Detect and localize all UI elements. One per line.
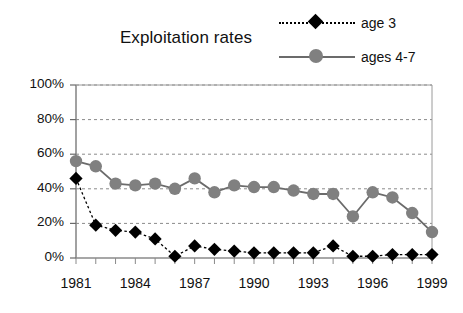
data-point-age-3-1984	[129, 225, 142, 238]
x-tick-label: 1987	[169, 275, 221, 291]
x-tick-label: 1999	[406, 275, 458, 291]
y-tick-label: 0%	[14, 249, 64, 264]
y-tick-label: 20%	[14, 214, 64, 229]
chart-container: Exploitation rates age 3 ages 4-7 0%20%4…	[0, 0, 463, 313]
data-point-ages-4-7-1984	[129, 179, 141, 191]
data-point-age-3-1995	[346, 250, 359, 263]
data-point-age-3-1999	[425, 248, 438, 261]
data-point-age-3-1997	[386, 248, 399, 261]
gridlines	[76, 85, 432, 223]
data-point-ages-4-7-1998	[406, 207, 418, 219]
data-point-ages-4-7-1988	[208, 186, 220, 198]
data-point-age-3-1989	[228, 244, 241, 257]
data-point-age-3-1988	[208, 243, 221, 256]
data-series-layer	[69, 155, 438, 263]
data-point-ages-4-7-1987	[188, 172, 200, 184]
data-point-ages-4-7-1983	[109, 177, 121, 189]
y-tick-marks	[70, 85, 76, 258]
data-point-ages-4-7-1996	[366, 186, 378, 198]
data-point-age-3-1983	[109, 224, 122, 237]
data-point-age-3-1994	[327, 239, 340, 252]
y-tick-label: 80%	[14, 111, 64, 126]
series-line-2	[76, 161, 432, 232]
data-point-ages-4-7-1992	[287, 184, 299, 196]
x-tick-label: 1984	[109, 275, 161, 291]
data-point-age-3-1996	[366, 250, 379, 263]
data-point-ages-4-7-1994	[327, 188, 339, 200]
data-point-age-3-1998	[406, 248, 419, 261]
data-point-ages-4-7-1997	[386, 191, 398, 203]
y-tick-label: 60%	[14, 145, 64, 160]
x-tick-label: 1996	[347, 275, 399, 291]
plot-area	[0, 0, 463, 313]
x-tick-label: 1990	[228, 275, 280, 291]
x-tick-label: 1993	[287, 275, 339, 291]
data-point-age-3-1981	[69, 172, 82, 185]
data-point-ages-4-7-1981	[70, 155, 82, 167]
data-point-ages-4-7-1995	[347, 210, 359, 222]
data-point-age-3-1982	[89, 219, 102, 232]
data-point-age-3-1987	[188, 239, 201, 252]
data-point-ages-4-7-1990	[248, 181, 260, 193]
data-point-ages-4-7-1982	[90, 160, 102, 172]
data-point-ages-4-7-1986	[169, 183, 181, 195]
data-point-age-3-1985	[149, 232, 162, 245]
data-point-ages-4-7-1985	[149, 177, 161, 189]
y-tick-label: 100%	[14, 76, 64, 91]
y-tick-label: 40%	[14, 180, 64, 195]
data-point-ages-4-7-1989	[228, 179, 240, 191]
data-point-ages-4-7-1999	[426, 226, 438, 238]
x-tick-label: 1981	[50, 275, 102, 291]
data-point-ages-4-7-1993	[307, 188, 319, 200]
data-point-ages-4-7-1991	[268, 181, 280, 193]
